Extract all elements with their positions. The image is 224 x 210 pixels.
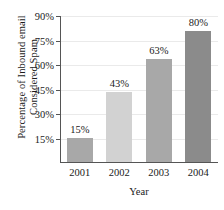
y-tick-label: 30% (35, 109, 54, 120)
y-tick-mark (56, 65, 61, 66)
x-tick-label: 2001 (69, 167, 90, 178)
x-tick-label: 2003 (148, 167, 169, 178)
y-tick-mark (56, 90, 61, 91)
bar: 43%2002 (106, 92, 132, 162)
y-axis-title-line-1: Percentage of Inbound email (16, 15, 28, 139)
y-tick-label: 75% (35, 35, 54, 46)
y-tick-label: 15% (35, 133, 54, 144)
bar-chart-figure: Percentage of Inbound email Considered S… (0, 0, 224, 210)
y-tick-label: 45% (35, 84, 54, 95)
bar-value-label: 80% (189, 17, 208, 28)
x-axis-line (60, 162, 218, 163)
bar: 63%2003 (146, 59, 172, 162)
y-tick-mark (56, 16, 61, 17)
bar: 15%2001 (67, 138, 93, 163)
y-axis-title-line-2: Considered Spam (28, 39, 40, 115)
bar-value-label: 63% (149, 45, 168, 56)
bar: 80%2004 (185, 31, 211, 162)
x-tick-label: 2004 (188, 167, 209, 178)
y-tick-mark (56, 139, 61, 140)
bar-value-label: 15% (70, 124, 89, 135)
x-tick-label: 2002 (109, 167, 130, 178)
plot-area: 15%30%45%60%75%90% 15%200143%200263%2003… (60, 16, 218, 163)
y-tick-label: 60% (35, 60, 54, 71)
y-tick-label: 90% (35, 11, 54, 22)
y-tick-mark (56, 114, 61, 115)
bar-value-label: 43% (110, 78, 129, 89)
x-axis-title: Year (60, 186, 218, 197)
y-tick-mark (56, 41, 61, 42)
